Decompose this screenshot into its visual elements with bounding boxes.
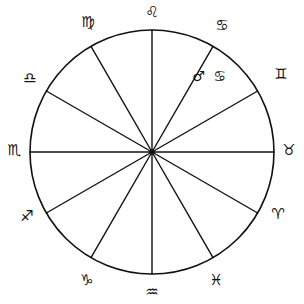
zodiac-sign-aries: ♈ xyxy=(271,207,284,222)
zodiac-wheel-figure: ♌♋♊♉♈♓♒♑♐♏♎♍ ♂ ♋ xyxy=(0,0,304,304)
zodiac-sign-pisces: ♓ xyxy=(209,273,222,288)
zodiac-sign-taurus: ♉ xyxy=(282,143,295,158)
zodiac-sign-aquarius: ♒ xyxy=(145,285,158,300)
wheel-center-hub xyxy=(150,150,155,155)
zodiac-sign-gemini: ♊ xyxy=(274,67,287,82)
mars-in-cancer-annotation: ♂ ♋ xyxy=(192,69,228,83)
zodiac-sign-cancer: ♋ xyxy=(215,18,228,33)
zodiac-sign-capricorn: ♑ xyxy=(80,273,93,288)
zodiac-sign-virgo: ♍ xyxy=(81,15,94,30)
zodiac-sign-leo: ♌ xyxy=(145,5,158,20)
zodiac-sign-sagittarius: ♐ xyxy=(20,209,33,224)
zodiac-sign-scorpio: ♏ xyxy=(7,143,20,158)
zodiac-wheel-diagram xyxy=(0,0,304,304)
zodiac-sign-libra: ♎ xyxy=(23,71,36,86)
